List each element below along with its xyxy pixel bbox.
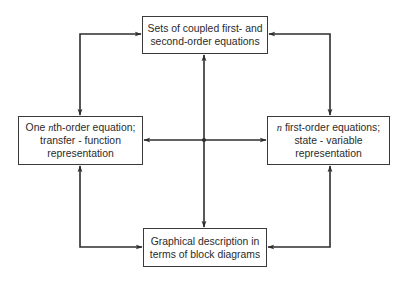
node-label-line: Sets of coupled first- and xyxy=(148,22,263,35)
node-block-diagrams: Graphical description in terms of block … xyxy=(143,228,267,267)
node-label-line: transfer - function xyxy=(40,134,121,147)
node-label-line: representation xyxy=(47,147,113,160)
edge-right-bottom xyxy=(268,166,330,247)
edge-top-right xyxy=(269,34,330,115)
edge-top-left xyxy=(80,34,141,115)
node-label-line: representation xyxy=(295,147,361,160)
representation-diagram: Sets of coupled first- and second-order … xyxy=(0,0,403,281)
edge-left-bottom xyxy=(80,166,142,247)
node-label-line: terms of block diagrams xyxy=(150,248,260,261)
node-label-line: Graphical description in xyxy=(151,235,260,248)
node-label-line: n first-order equations; xyxy=(277,121,380,134)
node-state-variable: n first-order equations; state - variabl… xyxy=(267,116,390,165)
node-coupled-equations: Sets of coupled first- and second-order … xyxy=(142,16,268,54)
node-transfer-function: One nth-order equation; transfer - funct… xyxy=(18,116,143,165)
node-label-line: One nth-order equation; xyxy=(26,121,136,134)
junction-dot xyxy=(202,138,206,142)
node-label-line: second-order equations xyxy=(150,35,259,48)
node-label-line: state - variable xyxy=(294,134,362,147)
